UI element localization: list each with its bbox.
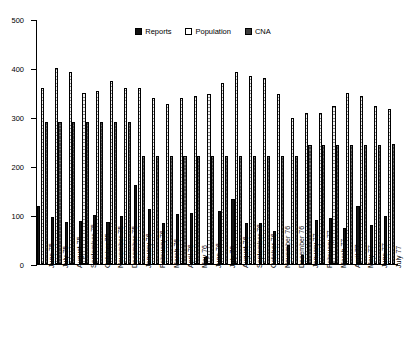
- bar-population: [360, 96, 363, 264]
- x-axis-label: November 76: [284, 226, 291, 268]
- x-axis-label-cell: August 75: [65, 266, 79, 343]
- x-axis-label: September 75: [89, 224, 96, 268]
- bar-group: [148, 20, 162, 264]
- bar-group: [190, 20, 204, 264]
- bar-population: [69, 72, 72, 264]
- x-axis-label-cell: July 76: [218, 266, 232, 343]
- bar-group: [356, 20, 370, 264]
- bar-cna: [58, 122, 61, 264]
- x-axis-label: April 76: [186, 244, 193, 268]
- x-axis-label-cell: May 77: [356, 266, 370, 343]
- bar-population: [180, 98, 183, 264]
- bar-population: [96, 91, 99, 264]
- bar-chart: Reports Population CNA 0100200300400500 …: [0, 0, 406, 343]
- bar-reports: [37, 206, 40, 264]
- bar-population: [221, 83, 224, 264]
- bar-population: [55, 68, 58, 264]
- x-axis-label-cell: January 76: [134, 266, 148, 343]
- bar-group: [384, 20, 398, 264]
- x-axis-label-cell: July 75: [51, 266, 65, 343]
- x-axis-label: March 77: [339, 239, 346, 268]
- bar-group: [218, 20, 232, 264]
- bar-population: [166, 104, 169, 264]
- y-axis-tick-label: 400: [0, 66, 24, 74]
- y-axis-tick-label: 100: [0, 213, 24, 221]
- bar-population: [374, 106, 377, 264]
- x-axis-label-cell: October 75: [93, 266, 107, 343]
- x-axis-label-cell: October 76: [259, 266, 273, 343]
- x-axis-label-cell: March 77: [329, 266, 343, 343]
- x-axis-label-cell: March 76: [162, 266, 176, 343]
- x-axis-label: June 77: [381, 243, 388, 268]
- y-axis-tick-label: 0: [0, 262, 24, 270]
- bar-group: [65, 20, 79, 264]
- bar-group: [231, 20, 245, 264]
- x-axis-label-cell: February 76: [148, 266, 162, 343]
- bar-population: [263, 78, 266, 264]
- bar-group: [315, 20, 329, 264]
- bar-population: [305, 113, 308, 264]
- x-axis-label: January 77: [311, 233, 318, 268]
- bar-group: [343, 20, 357, 264]
- bar-group: [162, 20, 176, 264]
- x-axis-label: February 76: [159, 230, 166, 268]
- x-axis-label-cell: June 75: [37, 266, 51, 343]
- x-axis-label: July 77: [395, 246, 402, 268]
- bar-population: [124, 88, 127, 264]
- bar-group: [51, 20, 65, 264]
- x-axis-label-cell: April 76: [176, 266, 190, 343]
- x-axis-label-cell: December 76: [287, 266, 301, 343]
- x-axis-label-cell: November 76: [273, 266, 287, 343]
- x-axis-label-cell: September 75: [79, 266, 93, 343]
- x-axis-label: December 76: [297, 226, 304, 268]
- x-axis-label-cell: August 76: [231, 266, 245, 343]
- x-axis-label: October 76: [270, 233, 277, 268]
- bar-population: [388, 109, 391, 264]
- x-axis-label-cell: January 77: [301, 266, 315, 343]
- y-axis-tick-label: 200: [0, 164, 24, 172]
- x-axis-label: June 75: [47, 243, 54, 268]
- y-axis-tick-label: 300: [0, 115, 24, 123]
- bar-population: [235, 72, 238, 264]
- bar-population: [291, 118, 294, 264]
- bar-population: [319, 113, 322, 264]
- bar-population: [277, 94, 280, 264]
- bar-population: [82, 93, 85, 264]
- x-axis-label-cell: May 76: [190, 266, 204, 343]
- bar-population: [152, 98, 155, 264]
- x-axis-label-cell: July 77: [384, 266, 398, 343]
- x-axis-label: March 76: [172, 239, 179, 268]
- bar-group: [204, 20, 218, 264]
- x-axis-label: July 75: [61, 246, 68, 268]
- x-axis-label-cell: June 76: [204, 266, 218, 343]
- x-axis-label: August 75: [75, 236, 82, 268]
- bar-population: [194, 96, 197, 264]
- x-axis-label: January 76: [145, 233, 152, 268]
- x-axis-label-cell: April 77: [343, 266, 357, 343]
- x-axis-label: May 77: [367, 245, 374, 268]
- bar-population: [249, 76, 252, 264]
- x-axis-label: September 76: [256, 224, 263, 268]
- x-axis-label: February 77: [325, 230, 332, 268]
- x-axis-label: July 76: [228, 246, 235, 268]
- x-axis-label-cell: November 75: [106, 266, 120, 343]
- bar-population: [41, 88, 44, 264]
- x-axis-label-cell: June 77: [370, 266, 384, 343]
- x-axis-label: December 75: [131, 226, 138, 268]
- x-axis-label-cell: September 76: [245, 266, 259, 343]
- bar-group: [370, 20, 384, 264]
- x-axis-label-cell: December 75: [120, 266, 134, 343]
- x-axis-label: August 76: [242, 236, 249, 268]
- bar-group: [176, 20, 190, 264]
- x-axis-label: May 76: [200, 245, 207, 268]
- x-axis-label-cell: February 77: [315, 266, 329, 343]
- bar-group: [37, 20, 51, 264]
- x-axis-label: November 75: [117, 226, 124, 268]
- y-axis-tick-label: 500: [0, 17, 24, 25]
- bar-population: [138, 88, 141, 264]
- bar-population: [346, 93, 349, 264]
- x-axis-label: April 77: [353, 244, 360, 268]
- x-axis-labels: June 75July 75August 75September 75Octob…: [37, 266, 398, 343]
- x-axis-label: October 75: [103, 233, 110, 268]
- bar-population: [110, 81, 113, 264]
